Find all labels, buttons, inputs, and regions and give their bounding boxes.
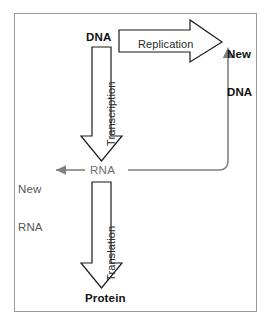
rna-to-new-dna-arrow: [128, 47, 233, 170]
node-label-new-dna-line1: New: [227, 48, 252, 61]
node-label-dna: DNA: [86, 31, 111, 44]
node-label-new-rna-line1: New: [18, 183, 43, 196]
node-label-new-rna: New RNA: [18, 157, 43, 260]
node-label-rna: RNA: [90, 164, 115, 177]
node-label-protein: Protein: [85, 292, 126, 305]
node-label-new-rna-line2: RNA: [18, 221, 43, 234]
node-label-new-dna-line2: DNA: [227, 86, 252, 99]
edge-label-translation: Translation: [105, 226, 117, 281]
node-label-new-dna: New DNA: [227, 22, 252, 125]
edge-label-replication: Replication: [138, 38, 194, 50]
edge-label-transcription: Transcription: [105, 82, 117, 146]
diagram-canvas: DNA RNA Protein New DNA New RNA Replicat…: [0, 0, 274, 329]
rna-to-new-rna-arrow: [56, 165, 85, 175]
